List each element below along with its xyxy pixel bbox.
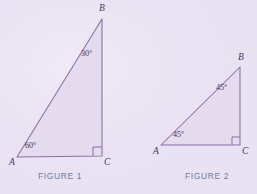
figure-2-vertex-label-b: B — [238, 53, 244, 63]
figure-2-angle-label-b: 45° — [216, 84, 227, 92]
geometry-figures-page: A B C 60° 30° FIGURE 1 A B C 45° 45° FIG… — [0, 0, 257, 194]
figure-1-vertex-label-c: C — [104, 158, 110, 168]
figure-1-vertex-label-a: A — [9, 158, 15, 168]
figure-2-angle-label-a: 45° — [173, 131, 184, 139]
figure-1-triangle-group — [17, 19, 102, 157]
figures-canvas — [0, 0, 257, 194]
figure-2-vertex-label-a: A — [153, 147, 159, 157]
figure-1-angle-label-a: 60° — [25, 142, 36, 150]
figure-1-angle-label-b: 30° — [81, 50, 92, 58]
figure-1-triangle — [17, 19, 102, 157]
figure-2-vertex-label-c: C — [242, 147, 248, 157]
figure-1-vertex-label-b: B — [99, 4, 105, 14]
figure-2-caption: FIGURE 2 — [0, 172, 257, 181]
